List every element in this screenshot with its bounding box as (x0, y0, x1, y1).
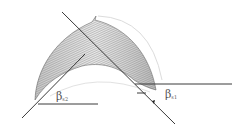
blade-diagram (0, 0, 246, 132)
beta-s1-label: βs1 (165, 89, 177, 100)
diagonal-line-long (62, 12, 175, 124)
beta-subscript: s1 (171, 94, 177, 100)
beta-s2-label: βs2 (56, 91, 68, 102)
beta-subscript: s2 (62, 96, 68, 102)
